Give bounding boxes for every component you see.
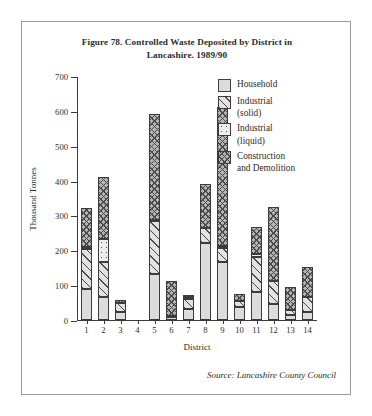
- bar-stack[interactable]: [149, 76, 159, 320]
- bar-segment[interactable]: [183, 297, 193, 299]
- bar-segment[interactable]: [302, 297, 312, 312]
- bar-segment[interactable]: [183, 299, 193, 309]
- legend-swatch: [218, 79, 231, 92]
- x-axis-tick: [87, 320, 88, 324]
- y-axis-tick: [71, 286, 77, 287]
- x-axis-tick: [308, 320, 309, 324]
- x-axis-tick-label: 8: [203, 325, 207, 335]
- y-axis-tick-label: 700: [55, 72, 68, 82]
- bar-segment[interactable]: [149, 219, 159, 221]
- bar-segment[interactable]: [200, 184, 210, 228]
- bar-segment[interactable]: [98, 297, 108, 320]
- bar-segment[interactable]: [217, 262, 227, 320]
- bar-segment[interactable]: [251, 227, 261, 255]
- bar-segment[interactable]: [251, 257, 261, 292]
- bar-segment[interactable]: [268, 281, 278, 304]
- bar-slot: 7: [180, 77, 197, 320]
- bar-segment[interactable]: [81, 289, 91, 320]
- bar-segment[interactable]: [285, 287, 295, 310]
- bar-stack[interactable]: [166, 76, 176, 320]
- y-axis-tick: [71, 321, 77, 322]
- x-axis-line: [77, 320, 317, 321]
- x-axis-tick: [223, 320, 224, 324]
- x-axis-tick-label: 13: [286, 325, 295, 335]
- bar-segment[interactable]: [234, 301, 244, 307]
- bar-segment[interactable]: [251, 254, 261, 257]
- bar-stack[interactable]: [98, 76, 108, 320]
- bar-segment[interactable]: [81, 247, 91, 249]
- y-axis-tick-label: 300: [55, 211, 68, 221]
- x-axis-tick-label: 2: [101, 325, 105, 335]
- legend-swatch: [218, 123, 231, 136]
- bar-slot: 3: [112, 77, 129, 320]
- legend-item[interactable]: Industrial(solid): [218, 95, 346, 119]
- x-axis-tick: [240, 320, 241, 324]
- bar-segment[interactable]: [115, 300, 125, 303]
- bar-stack[interactable]: [81, 76, 91, 320]
- bar-segment[interactable]: [149, 221, 159, 273]
- bar-stack[interactable]: [115, 76, 125, 320]
- legend-item[interactable]: Industrial(liquid): [218, 122, 346, 146]
- source-note: Source: Lancashire County Council: [207, 370, 336, 380]
- x-axis-tick: [206, 320, 207, 324]
- y-axis-tick-label: 200: [55, 246, 68, 256]
- legend-swatch: [218, 96, 231, 109]
- x-axis-tick: [155, 320, 156, 324]
- bar-segment[interactable]: [98, 239, 108, 262]
- x-axis-tick: [172, 320, 173, 324]
- bar-segment[interactable]: [149, 114, 159, 219]
- bar-stack[interactable]: [132, 76, 142, 320]
- x-axis-tick-label: 9: [220, 325, 224, 335]
- bar-slot: 1: [78, 77, 95, 320]
- x-axis-tick: [257, 320, 258, 324]
- legend-swatch: [218, 151, 231, 164]
- bar-segment[interactable]: [81, 208, 91, 247]
- legend-label: Constructionand Demolition: [237, 150, 295, 174]
- y-axis-tick-label: 500: [55, 142, 68, 152]
- legend-label: Household: [237, 78, 277, 90]
- figure-frame: Figure 78. Controlled Waste Deposited by…: [21, 21, 351, 395]
- bar-segment[interactable]: [302, 267, 312, 297]
- bar-segment[interactable]: [200, 243, 210, 320]
- bar-stack[interactable]: [183, 76, 193, 320]
- bar-segment[interactable]: [166, 281, 176, 316]
- figure-title-line-2: Lancashire. 1989/90: [34, 49, 340, 62]
- bar-segment[interactable]: [285, 310, 295, 316]
- bar-segment[interactable]: [183, 295, 193, 297]
- bar-segment[interactable]: [98, 262, 108, 297]
- bar-segment[interactable]: [200, 228, 210, 243]
- y-axis-tick-label: 600: [55, 107, 68, 117]
- bar-segment[interactable]: [251, 292, 261, 320]
- bar-slot: 5: [146, 77, 163, 320]
- legend-item[interactable]: Constructionand Demolition: [218, 150, 346, 174]
- bar-segment[interactable]: [268, 207, 278, 281]
- x-axis-tick: [138, 320, 139, 324]
- bar-stack[interactable]: [200, 76, 210, 320]
- bar-segment[interactable]: [81, 249, 91, 289]
- x-axis-tick-label: 7: [186, 325, 190, 335]
- y-axis-tick: [71, 182, 77, 183]
- x-axis-tick: [274, 320, 275, 324]
- bar-segment[interactable]: [115, 312, 125, 320]
- bar-segment[interactable]: [217, 248, 227, 263]
- y-axis-tick: [71, 77, 77, 78]
- legend-label: Industrial(liquid): [237, 122, 273, 146]
- bar-segment[interactable]: [234, 307, 244, 320]
- bar-segment[interactable]: [98, 177, 108, 240]
- x-axis-tick-label: 10: [235, 325, 244, 335]
- x-axis-title: District: [77, 342, 317, 352]
- bar-segment[interactable]: [234, 294, 244, 301]
- bar-segment[interactable]: [268, 304, 278, 320]
- y-axis-tick-label: 400: [55, 177, 68, 187]
- bar-segment[interactable]: [183, 309, 193, 321]
- y-axis-tick: [71, 147, 77, 148]
- legend-item[interactable]: Household: [218, 78, 346, 92]
- bar-segment[interactable]: [149, 274, 159, 320]
- x-axis-tick-label: 5: [152, 325, 156, 335]
- y-axis-tick: [71, 112, 77, 113]
- x-axis-tick-label: 11: [252, 325, 260, 335]
- x-axis-tick: [121, 320, 122, 324]
- bar-segment[interactable]: [302, 312, 312, 320]
- y-axis-tick: [71, 251, 77, 252]
- bar-segment[interactable]: [115, 303, 125, 312]
